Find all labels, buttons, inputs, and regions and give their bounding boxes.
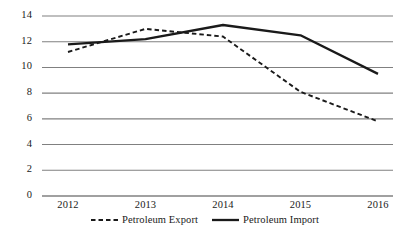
y-axis-tick-label: 12: [6, 35, 32, 46]
line-chart: 02468101214 20122013201420152016 Petrole…: [0, 0, 410, 242]
y-axis-tick-label: 6: [6, 112, 32, 123]
x-axis-tick-label: 2013: [124, 199, 168, 210]
x-axis-tick-label: 2014: [201, 199, 245, 210]
y-axis-tick-label: 4: [6, 138, 32, 149]
y-axis-tick-label: 2: [6, 163, 32, 174]
series-line-petroleum-import: [68, 25, 378, 74]
y-axis-tick-label: 14: [6, 9, 32, 20]
legend-item-petroleum-export[interactable]: Petroleum Export: [91, 214, 198, 225]
series-line-petroleum-export: [68, 29, 378, 122]
legend-label-petroleum-import: Petroleum Import: [243, 214, 319, 225]
dashed-line-icon: [91, 216, 118, 224]
x-axis-tick-label: 2016: [356, 199, 400, 210]
y-axis-tick-label: 10: [6, 60, 32, 71]
x-axis-tick-label: 2015: [279, 199, 323, 210]
chart-legend: Petroleum Export Petroleum Import: [0, 214, 410, 225]
solid-line-icon: [212, 216, 239, 224]
legend-label-petroleum-export: Petroleum Export: [122, 214, 198, 225]
y-axis-tick-label: 8: [6, 86, 32, 97]
legend-item-petroleum-import[interactable]: Petroleum Import: [212, 214, 319, 225]
x-axis-tick-label: 2012: [46, 199, 90, 210]
y-axis-tick-label: 0: [6, 189, 32, 200]
